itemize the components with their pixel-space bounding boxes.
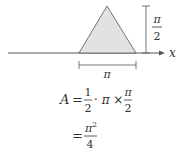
formula-result-exponent: 2 bbox=[92, 120, 97, 129]
height-label-denominator: 2 bbox=[154, 30, 161, 43]
formula-frac1-numerator: 1 bbox=[85, 86, 92, 99]
base-label: π bbox=[102, 68, 111, 81]
triangle bbox=[79, 6, 136, 53]
formula-equals-1: = bbox=[72, 92, 83, 107]
x-axis-label: x bbox=[169, 46, 176, 60]
x-axis-arrow-icon bbox=[159, 51, 165, 56]
formula-lhs: A bbox=[59, 92, 69, 107]
formula-equals-2: = bbox=[72, 128, 83, 143]
formula-frac1-denominator: 2 bbox=[85, 102, 92, 115]
triangle-area-diagram: x π 2 π A = 1 2 · π × π 2 = π 2 4 bbox=[0, 0, 181, 157]
formula-middle-terms: · π × bbox=[94, 93, 123, 107]
height-label-numerator: π bbox=[152, 13, 161, 26]
formula-frac2-denominator: 2 bbox=[125, 102, 132, 115]
formula-frac2-numerator: π bbox=[123, 86, 132, 99]
formula-result-denominator: 4 bbox=[87, 138, 94, 151]
